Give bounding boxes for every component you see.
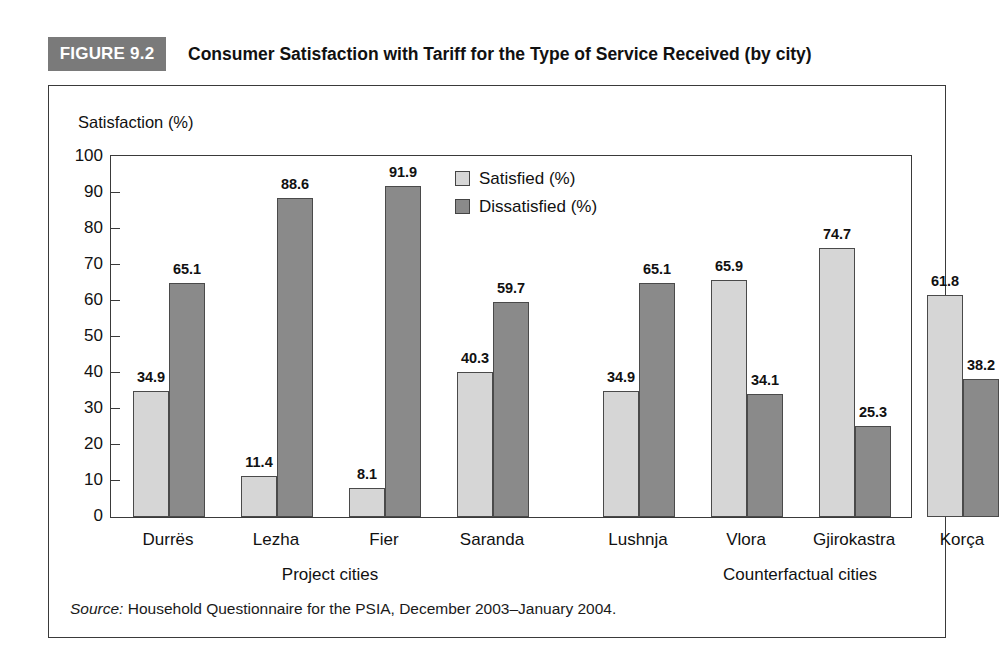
legend-item-satisfied: Satisfied (%) [455,166,597,191]
y-axis-label: 0 [63,507,103,524]
legend-swatch-dissatisfied-icon [455,199,470,214]
legend-swatch-satisfied-icon [455,171,470,186]
y-axis-tick [111,336,120,337]
bar-satisfied [819,248,855,517]
bar-value-label: 91.9 [376,165,430,180]
x-axis-city-label: Korça [892,531,1003,548]
chart-legend: Satisfied (%) Dissatisfied (%) [455,166,597,222]
bar-satisfied [603,391,639,517]
bar-value-label: 59.7 [484,281,538,296]
bar-dissatisfied [385,186,421,517]
bar-dissatisfied [493,302,529,517]
y-axis-label: 50 [63,327,103,344]
bar-value-label: 65.9 [702,259,756,274]
bar-dissatisfied [169,283,205,517]
y-axis-tick [111,192,120,193]
bar-satisfied [349,488,385,517]
source-text: Household Questionnaire for the PSIA, De… [123,600,616,617]
figure-number-badge: FIGURE 9.2 [48,37,166,71]
bar-value-label: 88.6 [268,177,322,192]
bar-dissatisfied [277,198,313,517]
x-axis-city-label: Saranda [422,531,562,548]
y-axis-label: 80 [63,219,103,236]
y-axis-label: 30 [63,399,103,416]
y-axis-tick [111,480,120,481]
y-axis-label: 40 [63,363,103,380]
bar-satisfied [927,295,963,517]
x-axis-group-label: Counterfactual cities [690,566,910,583]
source-label: Source: [70,600,123,617]
bar-dissatisfied [747,394,783,517]
bar-value-label: 34.1 [738,373,792,388]
figure-header: FIGURE 9.2 Consumer Satisfaction with Ta… [48,37,948,73]
figure-title: Consumer Satisfaction with Tariff for th… [188,37,812,71]
y-axis-tick [111,408,120,409]
y-axis-label: 70 [63,255,103,272]
bar-value-label: 38.2 [954,358,1003,373]
bar-value-label: 25.3 [846,405,900,420]
y-axis-label: 60 [63,291,103,308]
bar-value-label: 61.8 [918,274,972,289]
bar-satisfied [711,280,747,517]
bar-dissatisfied [963,379,999,517]
legend-item-dissatisfied: Dissatisfied (%) [455,194,597,219]
y-axis-label: 100 [63,147,103,164]
y-axis-label: 10 [63,471,103,488]
y-axis-tick [111,372,120,373]
y-axis-tick [111,228,120,229]
bar-satisfied [241,476,277,517]
bar-value-label: 65.1 [630,262,684,277]
legend-label-dissatisfied: Dissatisfied (%) [479,197,597,217]
bar-satisfied [457,372,493,517]
y-axis-tick [111,264,120,265]
legend-label-satisfied: Satisfied (%) [479,169,575,189]
source-note: Source: Household Questionnaire for the … [70,600,616,618]
y-axis-tick [111,444,120,445]
bar-satisfied [133,391,169,517]
bar-value-label: 74.7 [810,227,864,242]
bar-dissatisfied [855,426,891,517]
x-axis-group-label: Project cities [220,566,440,583]
y-axis-tick [111,300,120,301]
bar-value-label: 65.1 [160,262,214,277]
y-axis-caption: Satisfaction (%) [78,113,194,132]
bar-dissatisfied [639,283,675,517]
y-axis-label: 20 [63,435,103,452]
y-axis-label: 90 [63,183,103,200]
